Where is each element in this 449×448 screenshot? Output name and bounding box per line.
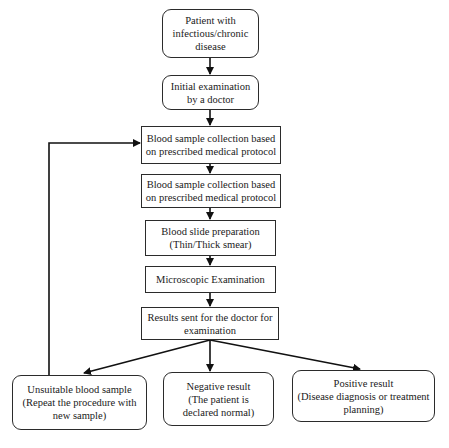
node-initial-exam: Initial examination by a doctor: [162, 75, 259, 110]
node-text: new sample): [53, 409, 106, 422]
node-text: Patient with: [185, 14, 235, 27]
arrow-results-to-positive: [210, 340, 360, 369]
node-results: Results sent for the doctor for examinat…: [141, 307, 279, 340]
node-collection-2: Blood sample collection based on prescri…: [141, 174, 281, 208]
node-microscopic: Microscopic Examination: [145, 266, 276, 293]
node-text: Blood sample collection based: [147, 178, 276, 191]
node-text: (The patient is: [188, 393, 249, 406]
arrow-feedback-loop: [49, 143, 140, 375]
node-text: infectious/chronic: [173, 27, 249, 40]
node-text: Unsuitable blood sample: [27, 383, 131, 396]
node-text: Positive result: [334, 377, 394, 390]
node-text: declared normal): [183, 406, 254, 419]
node-negative: Negative result (The patient is declared…: [163, 372, 274, 426]
node-text: by a doctor: [187, 93, 234, 106]
node-collection-1: Blood sample collection based on prescri…: [141, 126, 281, 164]
node-text: Initial examination: [171, 80, 251, 93]
node-slide-prep: Blood slide preparation (Thin/Thick smea…: [145, 220, 276, 256]
arrow-results-to-unsuitable: [84, 340, 210, 373]
node-positive: Positive result (Disease diagnosis or tr…: [292, 370, 435, 422]
node-text: Microscopic Examination: [156, 273, 265, 286]
node-text: (Disease diagnosis or treatment: [297, 390, 429, 403]
node-text: disease: [195, 40, 225, 53]
node-unsuitable: Unsuitable blood sample (Repeat the proc…: [12, 375, 147, 430]
node-text: on prescribed medical protocol: [146, 145, 276, 158]
node-text: examination: [184, 324, 236, 337]
node-text: Blood sample collection based: [147, 132, 276, 145]
node-patient: Patient with infectious/chronic disease: [162, 9, 259, 58]
node-text: (Thin/Thick smear): [170, 238, 252, 251]
node-text: on prescribed medical protocol: [146, 191, 276, 204]
node-text: (Repeat the procedure with: [23, 396, 137, 409]
node-text: Negative result: [187, 380, 251, 393]
node-text: Results sent for the doctor for: [147, 311, 272, 324]
node-text: Blood slide preparation: [161, 225, 260, 238]
node-text: planning): [343, 403, 383, 416]
